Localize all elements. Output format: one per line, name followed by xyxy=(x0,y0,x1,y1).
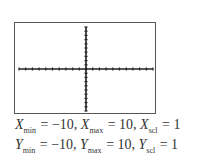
axes-plot xyxy=(15,23,157,115)
ymax-sub: max xyxy=(88,146,102,155)
xscl-sub: scl xyxy=(149,126,158,135)
ymin-var: Y xyxy=(15,137,23,152)
xscl-value: = 1 xyxy=(159,117,181,132)
ymin-value: = −10, xyxy=(36,137,80,152)
ymin-sub: min xyxy=(23,146,35,155)
xmin-sub: min xyxy=(24,126,36,135)
xmax-sub: max xyxy=(89,126,103,135)
ymax-var: Y xyxy=(80,137,88,152)
graph-screen xyxy=(14,22,156,114)
yscl-value: = 1 xyxy=(156,137,178,152)
yscl-sub: scl xyxy=(146,146,155,155)
xscl-var: X xyxy=(140,117,149,132)
xmax-value: = 10, xyxy=(104,117,140,132)
xmin-value: = −10, xyxy=(37,117,81,132)
ymax-value: = 10, xyxy=(103,137,139,152)
x-window-settings: Xmin = −10, Xmax = 10, Xscl = 1 xyxy=(15,117,180,135)
y-window-settings: Ymin = −10, Ymax = 10, Yscl = 1 xyxy=(15,137,178,155)
xmin-var: X xyxy=(15,117,24,132)
